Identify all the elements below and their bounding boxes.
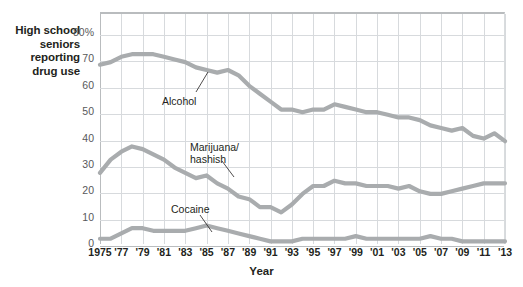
x-tick-label: '79 [136,246,150,258]
x-tick-label: '77 [114,246,128,258]
gridline-vertical [228,14,229,244]
gridline-vertical [164,14,165,244]
gridline-horizontal [100,88,504,89]
gridline-vertical [249,14,250,244]
x-tick-label: '81 [157,246,171,258]
gridline-vertical [313,14,314,244]
gridline-vertical [356,14,357,244]
gridline-vertical [271,14,272,244]
x-tick-label: '11 [477,246,491,258]
grid-lines [100,14,504,244]
gridline-vertical [377,14,378,244]
x-axis-ticks: 1975'77'79'81'83'85'87'89'91'93'95'97'99… [0,246,523,262]
series-label-cocaine: Cocaine [171,203,210,215]
x-tick-label: '97 [327,246,341,258]
y-tick-label: 30 [0,158,94,170]
gridline-vertical [334,14,335,244]
x-tick-label: '91 [263,246,277,258]
y-tick-label: 60 [0,79,94,91]
gridline-vertical [143,14,144,244]
chart-figure: High school seniors reporting drug use 0… [0,0,523,287]
x-tick-label: '05 [413,246,427,258]
x-tick-label: '89 [242,246,256,258]
gridline-horizontal [100,35,504,36]
gridline-vertical [441,14,442,244]
y-tick-label: 80% [0,26,94,38]
gridline-vertical [484,14,485,244]
y-tick-label: 20 [0,184,94,196]
gridline-horizontal [100,141,504,142]
x-tick-label: '95 [306,246,320,258]
x-tick-label: '07 [434,246,448,258]
y-tick-label: 10 [0,211,94,223]
y-axis-ticks: 01020304050607080% [0,0,96,287]
y-tick-label: 70 [0,52,94,64]
gridline-vertical [398,14,399,244]
x-tick-label: '99 [349,246,363,258]
y-tick-label: 40 [0,132,94,144]
x-tick-label: 1975 [88,246,111,258]
plot-area [100,12,505,244]
x-tick-label: '93 [285,246,299,258]
x-tick-label: '01 [370,246,384,258]
gridline-horizontal [100,220,504,221]
gridline-horizontal [100,193,504,194]
x-axis-label: Year [0,265,523,277]
gridline-vertical [505,14,506,244]
x-tick-label: '85 [199,246,213,258]
gridline-vertical [100,14,101,244]
x-tick-label: '83 [178,246,192,258]
gridline-horizontal [100,114,504,115]
gridline-horizontal [100,61,504,62]
x-tick-label: '13 [498,246,512,258]
y-tick-label: 50 [0,105,94,117]
x-tick-label: '09 [455,246,469,258]
x-tick-label: '87 [221,246,235,258]
series-label-alcohol: Alcohol [162,95,196,107]
series-label-marijuana: Marijuana/ hashish [190,141,239,165]
gridline-vertical [420,14,421,244]
gridline-vertical [292,14,293,244]
x-tick-label: '03 [391,246,405,258]
gridline-horizontal [100,167,504,168]
gridline-vertical [462,14,463,244]
gridline-vertical [121,14,122,244]
